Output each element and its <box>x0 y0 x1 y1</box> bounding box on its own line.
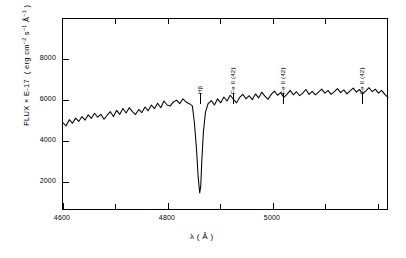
x-axis-label: λ ( Å ) <box>190 232 213 241</box>
y-axis-label: FLUX × E-17 ( erg cm−2 s−1 Å−1 ) <box>21 0 32 145</box>
plot-frame: Hβ Fe II (42) Fe II (42) Fe II (42) <box>62 18 388 210</box>
x-tick-label-5000: 5000 <box>252 214 292 221</box>
y-tick-label-2000: 2000 <box>22 177 56 184</box>
y-tick-label-8000: 8000 <box>22 54 56 61</box>
x-tick-label-4600: 4600 <box>42 214 82 221</box>
spectrum-figure: FLUX × E-17 ( erg cm−2 s−1 Å−1 ) 8000 60… <box>0 0 406 258</box>
y-tick-label-6000: 6000 <box>22 95 56 102</box>
spectrum-trace <box>63 19 389 211</box>
y-tick-label-4000: 4000 <box>22 136 56 143</box>
x-tick-label-4800: 4800 <box>147 214 187 221</box>
